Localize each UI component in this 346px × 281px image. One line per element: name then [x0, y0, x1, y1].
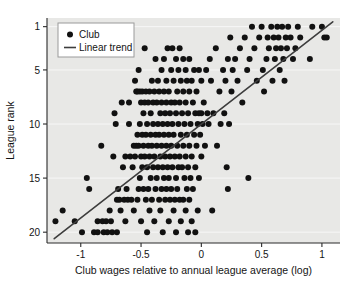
data-point	[110, 153, 116, 159]
data-point	[276, 34, 282, 40]
data-point	[239, 99, 245, 105]
data-point	[143, 197, 149, 203]
data-point	[107, 208, 113, 214]
data-point	[169, 121, 175, 127]
data-point	[268, 24, 274, 30]
data-point	[86, 186, 92, 192]
data-point	[190, 186, 196, 192]
data-point	[175, 121, 181, 127]
y-axis: 15101520	[29, 21, 47, 238]
data-point	[148, 110, 154, 116]
data-point	[166, 175, 172, 181]
data-point	[284, 45, 290, 51]
data-point	[177, 45, 183, 51]
data-point	[60, 208, 66, 214]
data-point	[218, 121, 224, 127]
data-point	[136, 67, 142, 73]
y-tick-label: 1	[34, 21, 40, 32]
data-point	[183, 208, 189, 214]
data-point	[180, 56, 186, 62]
legend-marker-club	[67, 32, 73, 38]
data-point	[192, 164, 198, 170]
y-axis-title: League rank	[4, 101, 16, 160]
data-point	[151, 218, 157, 224]
data-point	[227, 34, 233, 40]
data-point	[260, 67, 266, 73]
data-point	[225, 186, 231, 192]
data-point	[178, 132, 184, 138]
data-point	[185, 110, 191, 116]
data-point	[247, 56, 253, 62]
data-point	[126, 121, 132, 127]
data-point	[256, 34, 262, 40]
data-point	[179, 164, 185, 170]
data-point	[272, 56, 278, 62]
data-point	[309, 24, 315, 30]
data-point	[145, 186, 151, 192]
data-point	[204, 110, 210, 116]
data-point	[198, 78, 204, 84]
data-point	[194, 143, 200, 149]
data-point	[186, 143, 192, 149]
data-point	[198, 153, 204, 159]
legend: ClubLinear trend	[58, 23, 134, 57]
data-point	[249, 24, 255, 30]
data-point	[269, 78, 275, 84]
data-point	[265, 34, 271, 40]
data-point	[98, 143, 104, 149]
data-point	[285, 24, 291, 30]
data-point	[232, 56, 238, 62]
data-point	[180, 143, 186, 149]
data-point	[113, 121, 119, 127]
data-point	[171, 78, 177, 84]
data-point	[226, 121, 232, 127]
data-point	[161, 56, 167, 62]
data-point	[132, 78, 138, 84]
data-point	[173, 56, 179, 62]
data-point	[108, 218, 114, 224]
data-point	[237, 45, 243, 51]
data-point	[201, 99, 207, 105]
data-point	[266, 45, 272, 51]
data-point	[178, 218, 184, 224]
data-point	[251, 45, 257, 51]
data-point	[174, 186, 180, 192]
data-point	[157, 208, 163, 214]
data-point	[222, 78, 228, 84]
data-point	[178, 78, 184, 84]
data-point	[175, 67, 181, 73]
data-point	[134, 197, 140, 203]
x-axis-title: Club wages relative to annual league ave…	[75, 264, 312, 276]
x-tick-label: 0.5	[255, 249, 269, 260]
legend-label-linear-trend: Linear trend	[79, 42, 132, 53]
data-point	[140, 110, 146, 116]
data-point	[181, 175, 187, 181]
data-point	[130, 164, 136, 170]
data-point	[278, 45, 284, 51]
data-point	[235, 78, 241, 84]
data-point	[138, 218, 144, 224]
data-point	[183, 99, 189, 105]
data-point	[244, 67, 250, 73]
y-tick-label: 20	[29, 227, 41, 238]
data-point	[155, 78, 161, 84]
y-tick-label: 5	[34, 65, 40, 76]
data-point	[148, 175, 154, 181]
data-point	[195, 208, 201, 214]
data-point	[128, 197, 134, 203]
data-point	[84, 175, 90, 181]
data-point	[263, 56, 269, 62]
data-point	[197, 132, 203, 138]
data-point	[149, 197, 155, 203]
data-point	[214, 143, 220, 149]
data-point	[173, 175, 179, 181]
data-point	[190, 99, 196, 105]
data-point	[307, 56, 313, 62]
data-point	[180, 89, 186, 95]
data-point	[221, 110, 227, 116]
data-point	[228, 89, 234, 95]
data-point	[168, 67, 174, 73]
data-point	[230, 67, 236, 73]
data-point	[191, 132, 197, 138]
chart-canvas: 15101520-1-0.500.51Club wages relative t…	[0, 0, 346, 281]
